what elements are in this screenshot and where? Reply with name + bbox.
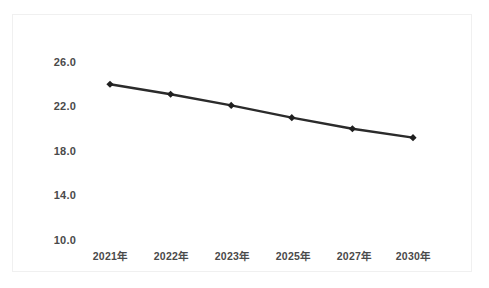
data-point-marker <box>409 134 416 141</box>
data-point-marker <box>288 114 295 121</box>
data-point-marker <box>106 81 113 88</box>
data-point-marker <box>228 102 235 109</box>
chart-figure: 26.0 22.0 18.0 14.0 10.0 2021年 2022年 202… <box>0 0 489 288</box>
line-plot-area <box>0 0 489 288</box>
series-line <box>110 84 413 137</box>
data-point-marker <box>167 91 174 98</box>
data-point-marker <box>349 125 356 132</box>
caption-strip <box>0 281 489 288</box>
